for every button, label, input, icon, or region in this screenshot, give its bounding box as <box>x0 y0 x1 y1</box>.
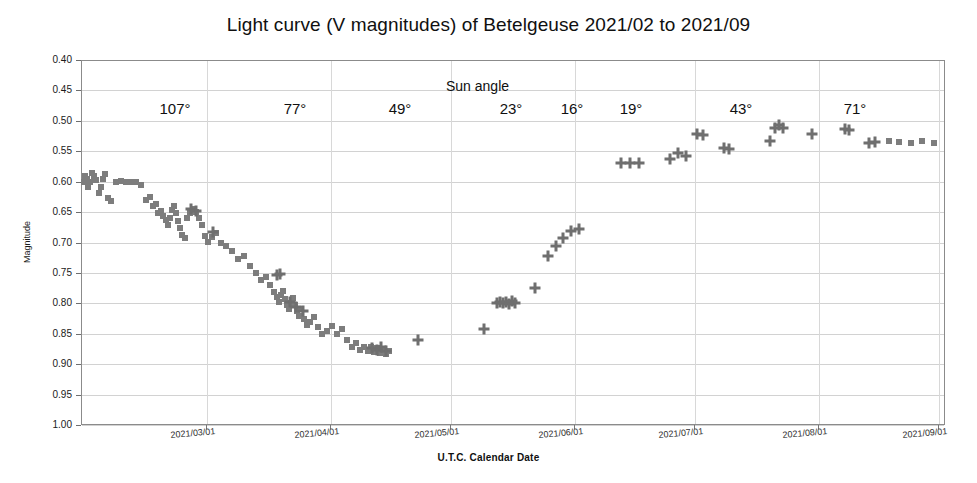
chart-title: Light curve (V magnitudes) of Betelgeuse… <box>0 14 977 36</box>
data-point-square <box>931 140 937 146</box>
data-point-cross <box>275 268 286 279</box>
x-tick-label: 2021/06/01 <box>538 426 584 440</box>
data-point-square <box>267 282 273 288</box>
y-tick-label: 0.50 <box>26 116 72 126</box>
data-point-square <box>241 253 247 259</box>
data-point-square <box>339 326 345 332</box>
y-tick-label: 0.45 <box>26 85 72 95</box>
data-point-cross <box>778 123 789 134</box>
y-tick-mark <box>76 395 81 396</box>
gridline-horizontal <box>82 90 944 91</box>
y-tick-label: 0.80 <box>26 298 72 308</box>
y-tick-mark <box>76 273 81 274</box>
data-point-square <box>199 222 205 228</box>
x-tick-label: 2021/03/01 <box>170 426 216 440</box>
data-point-cross <box>634 158 645 169</box>
sun-angle-value: 19° <box>620 100 643 117</box>
data-point-square <box>353 340 359 346</box>
sun-angle-value: 71° <box>844 100 867 117</box>
data-point-cross <box>208 226 219 237</box>
data-point-square <box>344 337 350 343</box>
data-point-cross <box>510 297 521 308</box>
sun-angle-value: 23° <box>500 100 523 117</box>
data-point-square <box>329 323 335 329</box>
y-tick-mark <box>76 243 81 244</box>
gridline-vertical <box>819 61 820 424</box>
y-tick-label: 0.60 <box>26 177 72 187</box>
gridline-horizontal <box>82 151 944 152</box>
data-point-square <box>247 263 253 269</box>
data-point-square <box>85 184 91 190</box>
gridline-horizontal <box>82 334 944 335</box>
data-point-square <box>147 194 153 200</box>
gridline-vertical <box>331 61 332 424</box>
data-point-square <box>280 288 286 294</box>
sun-angle-value: 49° <box>389 100 412 117</box>
x-tick-label: 2021/04/01 <box>294 426 340 440</box>
y-tick-label: 0.55 <box>26 146 72 156</box>
data-point-cross <box>381 345 392 356</box>
data-point-square <box>175 218 181 224</box>
data-point-square <box>896 139 902 145</box>
data-point-cross <box>413 335 424 346</box>
data-point-square <box>919 138 925 144</box>
gridline-horizontal <box>82 273 944 274</box>
x-tick-label: 2021/09/01 <box>902 426 948 440</box>
data-point-cross <box>870 136 881 147</box>
y-tick-label: 1.00 <box>26 420 72 430</box>
data-point-square <box>153 201 159 207</box>
data-point-cross <box>765 135 776 146</box>
data-point-cross <box>543 251 554 262</box>
y-tick-label: 0.90 <box>26 359 72 369</box>
gridline-vertical <box>695 61 696 424</box>
data-point-square <box>93 177 99 183</box>
gridline-vertical <box>451 61 452 424</box>
data-point-cross <box>698 130 709 141</box>
data-point-cross <box>844 124 855 135</box>
data-point-cross <box>681 151 692 162</box>
sun-angle-value: 16° <box>561 100 584 117</box>
y-tick-label: 0.65 <box>26 207 72 217</box>
gridline-horizontal <box>82 182 944 183</box>
gridline-horizontal <box>82 243 944 244</box>
data-point-cross <box>807 128 818 139</box>
data-point-square <box>315 324 321 330</box>
data-point-square <box>171 203 177 209</box>
data-point-square <box>229 248 235 254</box>
y-tick-mark <box>76 212 81 213</box>
y-tick-mark <box>76 60 81 61</box>
data-point-square <box>98 184 104 190</box>
sun-angle-value: 107° <box>159 100 190 117</box>
y-tick-label: 0.70 <box>26 238 72 248</box>
gridline-horizontal <box>82 212 944 213</box>
data-point-square <box>138 182 144 188</box>
data-point-cross <box>530 283 541 294</box>
sun-angle-value: 43° <box>730 100 753 117</box>
y-tick-mark <box>76 90 81 91</box>
data-point-square <box>96 190 102 196</box>
y-tick-mark <box>76 364 81 365</box>
data-point-cross <box>574 224 585 235</box>
gridline-horizontal <box>82 121 944 122</box>
data-point-square <box>263 274 269 280</box>
data-point-cross <box>298 305 309 316</box>
data-point-square <box>886 138 892 144</box>
x-tick-label: 2021/05/01 <box>414 426 460 440</box>
data-point-cross <box>724 144 735 155</box>
x-tick-label: 2021/07/01 <box>658 426 704 440</box>
data-point-square <box>908 140 914 146</box>
y-tick-label: 0.75 <box>26 268 72 278</box>
light-curve-figure: Light curve (V magnitudes) of Betelgeuse… <box>0 0 977 483</box>
y-tick-mark <box>76 334 81 335</box>
data-point-cross <box>191 205 202 216</box>
gridline-horizontal <box>82 395 944 396</box>
data-point-square <box>108 198 114 204</box>
y-tick-label: 0.40 <box>26 55 72 65</box>
x-axis-label: U.T.C. Calendar Date <box>0 452 977 463</box>
data-point-square <box>102 171 108 177</box>
gridline-horizontal <box>82 364 944 365</box>
data-point-square <box>184 215 190 221</box>
y-tick-label: 0.85 <box>26 329 72 339</box>
data-point-square <box>182 235 188 241</box>
y-tick-mark <box>76 425 81 426</box>
